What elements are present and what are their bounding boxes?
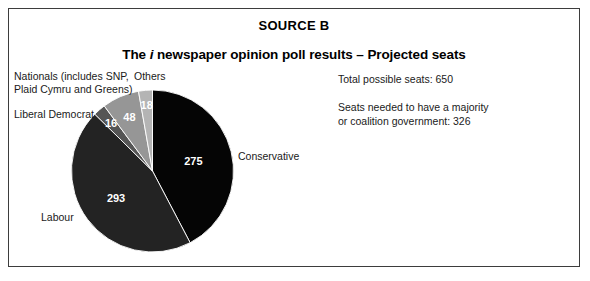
info-majority-line-2: or coalition government: 326 [338, 114, 489, 128]
info-majority-line-1: Seats needed to have a majority [338, 100, 489, 114]
callout-liberal-democrat: Liberal Democrat [14, 108, 94, 121]
info-total-seats: Total possible seats: 650 [338, 72, 489, 86]
callout-nationals-line-1: Nationals (includes SNP, [14, 70, 129, 82]
chart-title-prefix: The [122, 47, 149, 62]
callout-labour: Labour [41, 211, 74, 224]
chart-title: The i newspaper opinion poll results – P… [9, 47, 579, 62]
callout-nationals: Nationals (includes SNP,Plaid Cymru and … [14, 70, 132, 96]
source-heading: SOURCE B [9, 18, 579, 33]
chart-title-rest: newspaper opinion poll results – Project… [153, 47, 465, 62]
info-block: Total possible seats: 650 Seats needed t… [338, 72, 489, 128]
callout-conservative: Conservative [238, 150, 299, 163]
figure-frame: SOURCE B The i newspaper opinion poll re… [8, 8, 580, 267]
callout-nationals-line-2: Plaid Cymru and Greens) [14, 83, 132, 95]
figure-page: SOURCE B The i newspaper opinion poll re… [0, 0, 590, 281]
callout-others: Others [134, 70, 166, 83]
